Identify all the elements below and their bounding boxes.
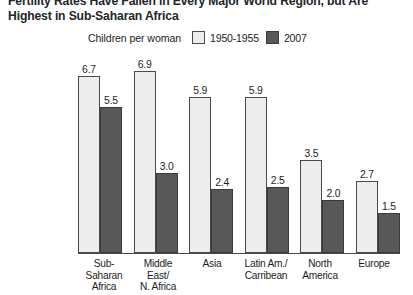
- bar-rect[interactable]: [211, 189, 233, 252]
- bar-dark[interactable]: 5.5: [100, 60, 122, 253]
- category-label: Latin Am./ Carribean: [240, 258, 292, 293]
- page-title-line-1: Fertility Rates Have Fallen in Every Maj…: [8, 0, 408, 9]
- bar-value-label: 5.9: [193, 85, 207, 96]
- bar-rect[interactable]: [300, 160, 322, 252]
- legend-entry-1950-1955: 1950-1955: [192, 31, 259, 44]
- bar-rect[interactable]: [189, 97, 211, 253]
- bar-rect[interactable]: [245, 97, 267, 253]
- plot-area: 6.75.56.93.05.92.45.92.53.52.02.71.5: [78, 60, 400, 254]
- bar-value-label: 1.5: [382, 201, 396, 212]
- bar-value-label: 2.0: [326, 188, 340, 199]
- bar-rect[interactable]: [134, 71, 156, 253]
- bar-rect[interactable]: [267, 187, 289, 253]
- bar-value-label: 5.5: [104, 95, 118, 106]
- bar-value-label: 2.7: [360, 169, 374, 180]
- bar-value-label: 2.4: [215, 177, 229, 188]
- bar-rect[interactable]: [322, 200, 344, 253]
- bar-group: 6.75.5: [78, 60, 122, 253]
- x-axis-line: [78, 253, 400, 255]
- bar-group: 5.92.4: [189, 60, 233, 253]
- bar-value-label: 6.7: [82, 64, 96, 75]
- bar-value-label: 6.9: [138, 59, 152, 70]
- category-label: Asia: [186, 258, 238, 293]
- bar-light[interactable]: 3.5: [300, 60, 322, 253]
- bar-group: 3.52.0: [300, 60, 344, 253]
- category-label: Sub-Saharan Africa: [78, 258, 130, 293]
- bar-light[interactable]: 6.7: [78, 60, 100, 253]
- bar-group: 6.93.0: [134, 60, 178, 253]
- chart-title: Fertility Rates Have Fallen in Every Maj…: [8, 0, 408, 24]
- bar-rect[interactable]: [156, 173, 178, 252]
- legend-swatch-icon-2007: [266, 31, 279, 44]
- bar-value-label: 3.0: [160, 161, 174, 172]
- bar-light[interactable]: 5.9: [189, 60, 211, 253]
- bar-group: 2.71.5: [356, 60, 400, 253]
- bar-value-label: 5.9: [249, 85, 263, 96]
- bar-light[interactable]: 6.9: [134, 60, 156, 253]
- legend-label-1950-1955: 1950-1955: [210, 32, 259, 44]
- bar-dark[interactable]: 2.4: [211, 60, 233, 253]
- bar-rect[interactable]: [378, 213, 400, 253]
- legend-label-2007: 2007: [284, 32, 307, 44]
- legend-caption: Children per woman: [88, 32, 181, 44]
- bar-dark[interactable]: 1.5: [378, 60, 400, 253]
- bar-dark[interactable]: 3.0: [156, 60, 178, 253]
- bar-groups: 6.75.56.93.05.92.45.92.53.52.02.71.5: [78, 60, 400, 253]
- bar-group: 5.92.5: [245, 60, 289, 253]
- legend-swatch-icon-1950-1955: [192, 31, 205, 44]
- bar-light[interactable]: 2.7: [356, 60, 378, 253]
- category-label: North America: [294, 258, 346, 293]
- x-axis-category-labels: Sub-Saharan AfricaMiddle East/ N. Africa…: [78, 258, 400, 293]
- bar-dark[interactable]: 2.5: [267, 60, 289, 253]
- category-label: Europe: [348, 258, 400, 293]
- bar-rect[interactable]: [78, 76, 100, 253]
- bar-rect[interactable]: [100, 107, 122, 252]
- bar-light[interactable]: 5.9: [245, 60, 267, 253]
- bar-value-label: 3.5: [304, 148, 318, 159]
- bar-value-label: 2.5: [271, 175, 285, 186]
- legend-entry-2007: 2007: [266, 31, 307, 44]
- bar-rect[interactable]: [356, 181, 378, 252]
- bar-dark[interactable]: 2.0: [322, 60, 344, 253]
- category-label: Middle East/ N. Africa: [132, 258, 184, 293]
- chart-legend: Children per woman 1950-1955 2007: [88, 31, 307, 44]
- page-title-line-2: Highest in Sub-Saharan Africa: [8, 9, 408, 24]
